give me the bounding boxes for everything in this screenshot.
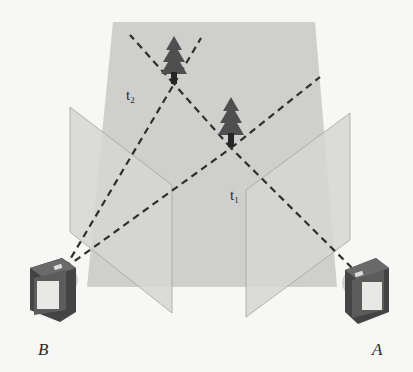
label-camera-b: B — [38, 341, 48, 358]
label-t1: t1 — [230, 188, 239, 205]
label-t2-sub: 2 — [130, 95, 135, 105]
stereo-camera-diagram — [0, 0, 413, 372]
label-t1-sub: 1 — [234, 195, 239, 205]
camera-b-icon — [30, 258, 78, 322]
label-t2: t2 — [126, 88, 135, 105]
label-camera-a: A — [372, 341, 382, 358]
camera-a-icon — [342, 258, 389, 324]
